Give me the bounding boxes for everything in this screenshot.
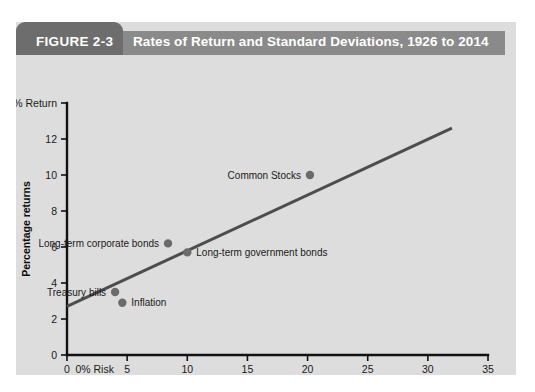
data-point-label-1: Long-term government bonds <box>196 247 327 258</box>
x-tick-label-15: 15 <box>242 363 254 375</box>
x-tick-label-10: 10 <box>181 363 193 375</box>
y-axis-title: Percentage returns <box>20 181 32 277</box>
data-point-3[interactable] <box>118 299 126 307</box>
x-tick-label-25: 25 <box>362 363 374 375</box>
data-point-label-2: Long-term corporate bonds <box>38 238 159 249</box>
scatter-chart-svg: 02468101214% Return 05101520253035 0% Ri… <box>16 55 516 375</box>
data-point-label-0: Common Stocks <box>228 170 301 181</box>
x-origin-risk-label: 0% Risk <box>75 363 114 375</box>
x-axis-tick-labels: 05101520253035 <box>64 363 494 375</box>
trend-line <box>67 128 452 306</box>
x-tick-label-0: 0 <box>64 363 70 375</box>
figure-header: FIGURE 2-3 Rates of Return and Standard … <box>16 22 505 55</box>
y-tick-label-2: 2 <box>51 313 57 325</box>
figure-panel: FIGURE 2-3 Rates of Return and Standard … <box>16 22 516 375</box>
data-point-labels-group: Common StocksLong-term government bondsL… <box>38 170 327 309</box>
figure-title-label: Rates of Return and Standard Deviations,… <box>133 34 489 49</box>
y-tick-label-0: 0 <box>51 349 57 361</box>
chart-plot-area: 02468101214% Return 05101520253035 0% Ri… <box>16 55 516 375</box>
data-point-label-4: Treasury bills <box>47 287 106 298</box>
x-tick-label-35: 35 <box>482 363 494 375</box>
data-point-4[interactable] <box>111 288 119 296</box>
y-tick-label-8: 8 <box>51 205 57 217</box>
y-tick-label-10: 10 <box>45 169 57 181</box>
figure-number-label: FIGURE 2-3 <box>36 34 113 49</box>
x-tick-label-30: 30 <box>422 363 434 375</box>
y-tick-label-12: 12 <box>45 133 57 145</box>
data-point-1[interactable] <box>183 248 191 256</box>
x-tick-label-5: 5 <box>124 363 130 375</box>
data-point-0[interactable] <box>306 171 314 179</box>
x-tick-label-20: 20 <box>302 363 314 375</box>
data-point-label-3: Inflation <box>131 297 166 308</box>
data-point-2[interactable] <box>164 239 172 247</box>
y-tick-label-14: 14% Return <box>16 97 57 109</box>
